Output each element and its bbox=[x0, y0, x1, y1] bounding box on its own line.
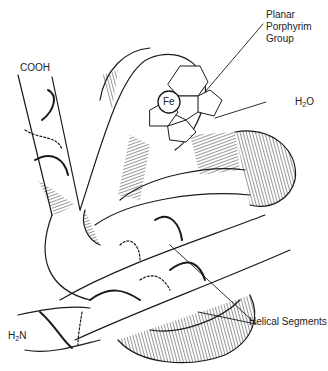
porphyrin-ring bbox=[150, 66, 222, 142]
bottom-loop-segment bbox=[118, 295, 255, 363]
h2n-label: H2N bbox=[8, 330, 26, 342]
h2n-terminal-helix bbox=[18, 307, 100, 351]
middle-helix-bundle bbox=[83, 131, 295, 245]
iron-label: Fe bbox=[163, 96, 175, 108]
porphyrin-label-line1: Planar bbox=[266, 9, 312, 21]
iron-text: Fe bbox=[163, 96, 175, 107]
h2n-n: N bbox=[19, 330, 26, 341]
h2o-o: O bbox=[306, 96, 314, 107]
cooh-text: COOH bbox=[20, 62, 50, 73]
helical-segments-label: Helical Segments bbox=[249, 316, 327, 328]
cooh-terminal-helix bbox=[18, 75, 80, 215]
helical-segments-text: Helical Segments bbox=[249, 316, 327, 327]
protein-diagram: Planar Porphyrim Group COOH H2O Fe H2N H… bbox=[0, 0, 328, 371]
h2o-label: H2O bbox=[295, 96, 314, 108]
porphyrin-group-label: Planar Porphyrim Group bbox=[266, 9, 312, 45]
cooh-label: COOH bbox=[20, 62, 50, 74]
porphyrin-label-line3: Group bbox=[266, 33, 312, 45]
porphyrin-label-line2: Porphyrim bbox=[266, 21, 312, 33]
